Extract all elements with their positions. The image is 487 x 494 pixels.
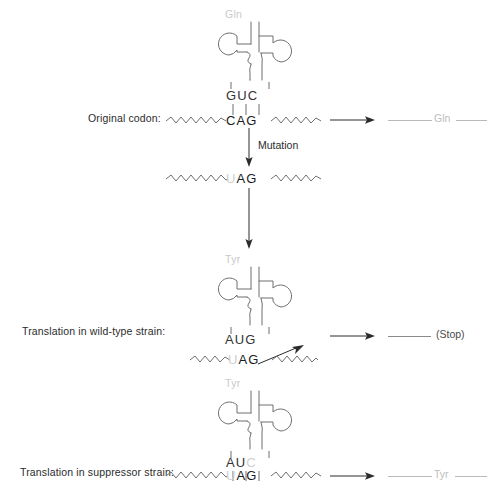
translation-arrow-original — [330, 114, 376, 126]
mrna-wave-original-right — [271, 113, 321, 127]
anticodon-original: GUC — [226, 88, 258, 103]
codon-wildtype: UAG — [228, 352, 259, 367]
codon-mutant-rest: AG — [237, 171, 258, 186]
codon-original: CAG — [226, 113, 257, 128]
translation-flow-arrow — [243, 188, 255, 250]
translation-arrow-wildtype — [330, 330, 376, 342]
codon-wildtype-first-base: U — [228, 352, 239, 367]
mrna-wave-suppressor-left — [166, 468, 228, 482]
row-label-original-codon: Original codon: — [88, 112, 161, 124]
diagram-canvas: Gln — [0, 0, 487, 494]
polypeptide-residue-suppressor: Tyr — [434, 468, 449, 480]
codon-suppressor-rest: AG — [237, 468, 258, 483]
row-label-wildtype: Translation in wild-type strain: — [22, 325, 165, 337]
amino-acid-label-gln-top: Gln — [225, 8, 242, 20]
mrna-wave-wildtype-right — [272, 352, 318, 366]
row-label-suppressor: Translation in suppressor strain: — [20, 466, 174, 478]
polypeptide-line-suppressor-right — [455, 475, 487, 478]
codon-suppressor: UAG — [226, 468, 257, 483]
mutation-arrow — [243, 128, 255, 168]
codon-suppressor-first-base: U — [226, 468, 237, 483]
mrna-wave-original-left — [166, 113, 226, 127]
stop-label: (Stop) — [436, 328, 465, 340]
codon-mutant-first-base: U — [226, 171, 237, 186]
translation-arrow-suppressor — [330, 470, 376, 482]
mutation-label: Mutation — [258, 139, 298, 151]
mrna-wave-mutant-right — [271, 171, 321, 185]
mrna-wave-mutant-left — [166, 171, 228, 185]
amino-acid-label-tyr-suppressor: Tyr — [225, 377, 240, 389]
mrna-wave-suppressor-right — [271, 468, 321, 482]
codon-wildtype-rest: AG — [239, 352, 260, 367]
mrna-wave-wildtype-left — [190, 352, 230, 366]
codon-mutant: UAG — [226, 171, 257, 186]
polypeptide-line-original-left — [388, 119, 432, 122]
polypeptide-residue-original: Gln — [434, 112, 450, 124]
polypeptide-line-suppressor-left — [388, 475, 432, 478]
anticodon-wildtype: AUG — [225, 332, 256, 347]
polypeptide-line-wildtype — [388, 335, 431, 338]
polypeptide-line-original-right — [456, 119, 487, 122]
amino-acid-label-tyr-wildtype: Tyr — [225, 253, 240, 265]
